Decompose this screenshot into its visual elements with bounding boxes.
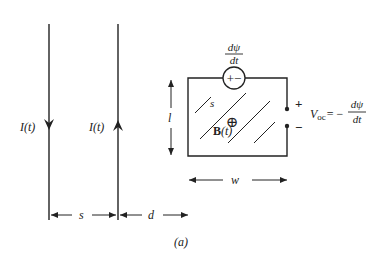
right-current-label: I(t) [88,120,104,134]
induction-diagram: I(t) I(t) s d l dψ dt s ⊕ B(t) + [0,0,380,262]
field-label: B(t) [213,124,232,138]
emf-fraction: dψ dt [225,41,243,66]
figure-caption: (a) [174,235,188,249]
terminals [285,107,289,128]
svg-text:dt: dt [230,54,240,66]
minus-terminal [285,124,289,128]
svg-text:dt: dt [353,113,363,125]
voc-equation: Voc= − dψ dt [310,98,366,125]
svg-text:dψ: dψ [351,98,364,110]
plus-terminal [285,107,289,111]
left-current-label: I(t) [19,120,35,134]
plus-sign: + [295,96,302,111]
length-l-label: l [168,111,172,125]
area-s-label: s [210,97,214,109]
width-w-label: w [231,173,239,187]
svg-text:Voc= −: Voc= − [310,107,344,122]
source-polarity: +− [227,71,242,86]
right-wire [113,24,123,220]
minus-sign: − [295,120,302,135]
svg-text:dψ: dψ [228,41,241,53]
left-wire [44,24,54,220]
voltage-source: +− [223,67,245,89]
spacing-s-label: s [79,208,84,222]
offset-d-label: d [148,208,155,222]
